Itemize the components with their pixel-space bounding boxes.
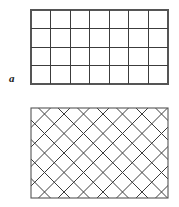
panel-b: b	[0, 95, 179, 207]
figure-container: a b	[0, 0, 179, 207]
panel-a-label: a	[9, 73, 15, 84]
diagonal-grid-diagram	[0, 95, 179, 207]
panel-a: a	[0, 0, 179, 95]
orthogonal-grid-diagram	[0, 0, 179, 95]
diagonal-line-down-right	[175, 108, 179, 207]
